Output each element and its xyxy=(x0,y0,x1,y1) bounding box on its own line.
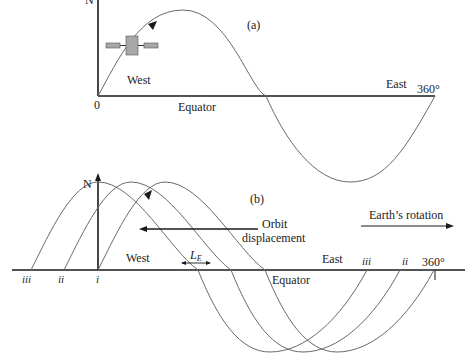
mark-ii-left: ii xyxy=(58,273,64,285)
ground-track-ii xyxy=(64,182,400,352)
panel-a: N (a) West East 360° 0 Equator xyxy=(85,0,440,182)
arrowhead-right-icon xyxy=(446,223,454,229)
north-label: N xyxy=(83,177,92,191)
north-arrow-icon xyxy=(95,173,101,181)
east-label: East xyxy=(386,77,407,91)
arrowhead-left-icon xyxy=(139,226,147,232)
le-arrowhead-right-icon xyxy=(206,261,211,265)
origin-label: 0 xyxy=(94,98,100,112)
degree-360-label: 360° xyxy=(417,82,440,96)
equator-label: Equator xyxy=(178,100,216,114)
ground-track-iii xyxy=(31,182,367,352)
le-arrowhead-left-icon xyxy=(181,261,186,265)
satellite-icon xyxy=(106,36,158,55)
mark-iii-left: iii xyxy=(22,273,31,285)
equator-label: Equator xyxy=(272,273,310,287)
panel-b-label: (b) xyxy=(250,192,264,206)
mark-iii-right: iii xyxy=(362,255,371,267)
earth-rotation-label: Earth’s rotation xyxy=(369,208,443,222)
panel-b: N (b) Orbit displacement Earth’s rotatio… xyxy=(12,173,465,352)
east-label: East xyxy=(322,252,343,266)
north-label: N xyxy=(85,0,94,7)
degree-360-label: 360° xyxy=(422,255,445,269)
west-label: West xyxy=(127,73,151,87)
mark-i-left: i xyxy=(96,273,99,285)
le-label: LE xyxy=(189,248,202,263)
panel-a-label: (a) xyxy=(247,18,260,32)
displacement-label: displacement xyxy=(242,231,306,245)
mark-ii-right: ii xyxy=(402,255,408,267)
orbit-label: Orbit xyxy=(262,217,288,231)
west-label: West xyxy=(126,251,150,265)
ground-track-diagram: N (a) West East 360° 0 Equator N (b) Orb… xyxy=(0,0,468,364)
